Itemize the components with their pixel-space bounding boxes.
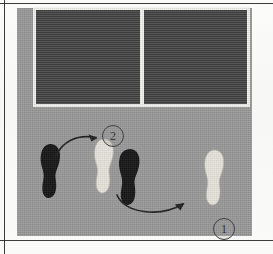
callout-2-number: 2 — [110, 130, 116, 142]
callout-1: 1 — [213, 218, 235, 240]
right-white-foot — [203, 149, 226, 206]
callout-2: 2 — [102, 125, 124, 147]
page-rule-top — [0, 3, 273, 4]
arrow-1 — [115, 191, 199, 221]
footwork-figure: 2 1 — [0, 0, 273, 254]
callout-1-number: 1 — [221, 223, 227, 235]
wall-panel-left — [36, 10, 140, 104]
page-rule-left — [4, 0, 5, 254]
page-rule-bottom — [0, 240, 273, 241]
wall-panel-right — [144, 10, 248, 104]
court-panel: 2 1 — [17, 8, 252, 236]
wall-frame — [33, 7, 250, 107]
